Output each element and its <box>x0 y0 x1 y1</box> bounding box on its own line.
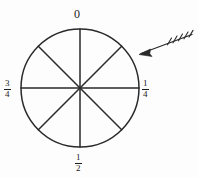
fraction-numerator: 1 <box>142 79 149 88</box>
arrowhead <box>139 49 152 57</box>
label-three-quarters: 3 4 <box>4 79 11 100</box>
label-one-half: 1 2 <box>75 153 82 174</box>
pointer-arrow <box>139 30 193 56</box>
fraction-denominator: 2 <box>75 164 82 173</box>
fraction-numerator: 3 <box>4 79 11 88</box>
fraction-denominator: 4 <box>4 90 11 99</box>
fraction-circle-figure: 0 1 4 1 2 3 4 <box>0 0 198 177</box>
fraction-denominator: 4 <box>142 90 149 99</box>
fraction-one-half: 1 2 <box>75 153 82 174</box>
fraction-numerator: 1 <box>75 153 82 162</box>
fraction-three-quarters: 3 4 <box>4 79 11 100</box>
fraction-one-quarter: 1 4 <box>142 79 149 100</box>
label-one-quarter: 1 4 <box>142 79 149 100</box>
label-zero: 0 <box>74 8 80 20</box>
circle-diagram-canvas <box>0 0 198 177</box>
